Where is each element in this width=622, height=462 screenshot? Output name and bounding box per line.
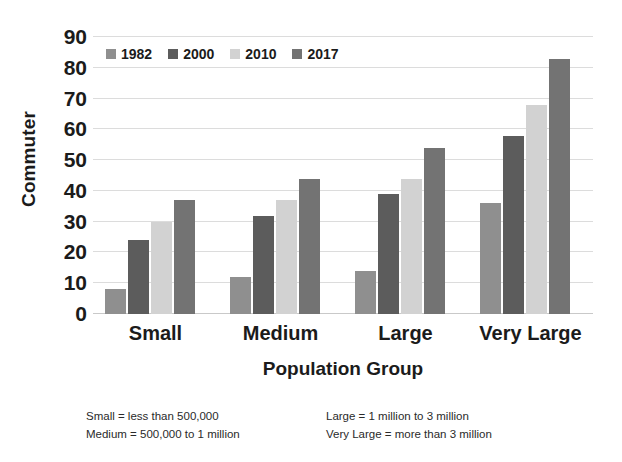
legend-label: 2010 [245,47,276,61]
legend: 1982200020102017 [106,47,339,61]
bar-2017-large [424,148,445,314]
category-label-small: Small [93,322,218,345]
footnote-row: Small = less than 500,000 Large = 1 mill… [86,408,556,426]
legend-swatch-icon-2017 [292,49,302,59]
y-tick-label: 90 [41,26,87,47]
legend-entry-2010[interactable]: 2010 [230,47,276,61]
y-tick-label: 70 [41,88,87,109]
bar-group-medium [218,37,343,314]
y-tick-label: 30 [41,211,87,232]
y-tick-label: 80 [41,57,87,78]
x-axis-category-labels: SmallMediumLargeVery Large [93,322,593,352]
bar-1982-large [355,271,376,314]
bar-2000-small [128,240,149,314]
y-axis-tick-labels: 0102030405060708090 [35,37,87,314]
bar-2017-medium [299,179,320,314]
legend-label: 1982 [121,47,152,61]
footnote-small: Small = less than 500,000 [86,408,316,426]
category-label-medium: Medium [218,322,343,345]
y-tick-label: 60 [41,118,87,139]
bar-2017-very-large [549,59,570,314]
footnote-medium: Medium = 500,000 to 1 million [86,426,316,444]
footnote-very-large: Very Large = more than 3 million [320,426,556,444]
bar-2010-very-large [526,105,547,314]
legend-label: 2017 [307,47,338,61]
legend-label: 2000 [183,47,214,61]
plot-area [93,37,593,314]
bar-2010-large [401,179,422,314]
legend-swatch-icon-2000 [168,49,178,59]
bar-group-small [93,37,218,314]
y-tick-label: 40 [41,180,87,201]
y-tick-label: 20 [41,241,87,262]
legend-entry-2017[interactable]: 2017 [292,47,338,61]
bar-2000-medium [253,216,274,314]
bar-1982-small [105,289,126,314]
footnote-row: Medium = 500,000 to 1 million Very Large… [86,426,556,444]
bar-2000-large [378,194,399,314]
legend-entry-2000[interactable]: 2000 [168,47,214,61]
bar-2017-small [174,200,195,314]
bars-layer [93,37,593,314]
commuter-bar-chart: Commuter 0102030405060708090 19822000201… [0,0,622,462]
bar-2010-small [151,222,172,314]
y-tick-label: 0 [41,303,87,324]
footnote-large: Large = 1 million to 3 million [326,408,556,426]
y-tick-label: 50 [41,149,87,170]
category-label-very-large: Very Large [468,322,593,345]
x-axis-title: Population Group [93,358,593,380]
bar-1982-very-large [480,203,501,314]
bar-group-large [343,37,468,314]
legend-swatch-icon-1982 [106,49,116,59]
bar-2010-medium [276,200,297,314]
bar-1982-medium [230,277,251,314]
legend-entry-1982[interactable]: 1982 [106,47,152,61]
category-label-large: Large [343,322,468,345]
bar-group-very-large [468,37,593,314]
footnotes: Small = less than 500,000 Large = 1 mill… [86,408,556,444]
legend-swatch-icon-2010 [230,49,240,59]
y-tick-label: 10 [41,272,87,293]
bar-2000-very-large [503,136,524,315]
